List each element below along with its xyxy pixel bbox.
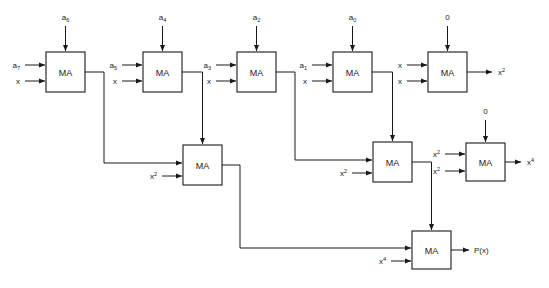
wire-r1c2-to-r2c1-top bbox=[182, 72, 203, 144]
label-a2: a2 bbox=[253, 13, 261, 23]
label-zero-top-r1c5: 0 bbox=[445, 13, 450, 22]
label-x-r1c5-a: x bbox=[398, 61, 402, 70]
label-zero-top-r2c3: 0 bbox=[483, 107, 488, 116]
label-a3: a3 bbox=[203, 61, 211, 71]
label-a0: a0 bbox=[349, 13, 357, 23]
ma-array-diagram: MA MA MA MA MA MA MA MA MA a6 a4 a2 a0 0… bbox=[0, 0, 549, 288]
label-x-r1c4: x bbox=[303, 77, 307, 86]
label-x-squared-r2c3-in-b: x2 bbox=[433, 166, 440, 176]
ma-block-label: MA bbox=[441, 68, 455, 78]
label-x-fourth-r2c3-out: x4 bbox=[527, 157, 534, 167]
ma-block-label: MA bbox=[479, 158, 493, 168]
label-a1: a1 bbox=[299, 61, 307, 71]
label-a6: a6 bbox=[62, 13, 70, 23]
label-x-r1c1: x bbox=[16, 77, 20, 86]
ma-block-label: MA bbox=[425, 246, 439, 256]
ma-block-label: MA bbox=[346, 68, 360, 78]
label-x-r1c3: x bbox=[207, 77, 211, 86]
ma-block-label: MA bbox=[196, 161, 210, 171]
label-x-squared-r2c3-in-a: x2 bbox=[433, 149, 440, 159]
label-a5: a5 bbox=[109, 61, 117, 71]
label-px-output: P(x) bbox=[474, 246, 489, 255]
label-x-squared-r2c2-in: x2 bbox=[340, 168, 347, 178]
wire-r2c2-to-r3c1-top bbox=[412, 162, 432, 230]
label-x-r1c2: x bbox=[113, 77, 117, 86]
ma-block-label: MA bbox=[156, 68, 170, 78]
label-x-squared-r2c1-in: x2 bbox=[150, 171, 157, 181]
label-x-r1c5-b: x bbox=[398, 77, 402, 86]
label-a7: a7 bbox=[12, 61, 20, 71]
wire-r1c4-to-r2c2-top bbox=[372, 72, 393, 141]
label-x-fourth-r3c1-in: x4 bbox=[379, 256, 386, 266]
ma-block-label: MA bbox=[59, 68, 73, 78]
ma-block-label: MA bbox=[386, 158, 400, 168]
label-a4: a4 bbox=[159, 13, 167, 23]
ma-block-label: MA bbox=[250, 68, 264, 78]
label-x-squared-r1c5-out: x2 bbox=[498, 67, 505, 77]
